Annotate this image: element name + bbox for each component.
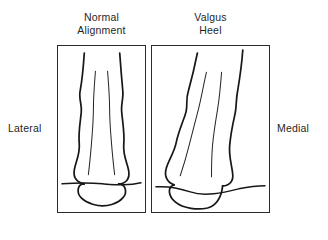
leg-contour-lateral-valgus: [166, 53, 198, 185]
ground-line-normal: [62, 183, 141, 185]
achilles-tendon-border-medial-valgus: [212, 72, 222, 177]
achilles-tendon-border-medial-normal: [108, 71, 115, 175]
normal-alignment-illustration: [58, 46, 145, 212]
panel-title-valgus: Valgus Heel: [151, 11, 270, 36]
leg-contour-medial-valgus: [223, 50, 243, 186]
valgus-heel-diagram: Normal Alignment Valgus Heel Lateral Med…: [0, 0, 328, 240]
valgus-heel-illustration: [152, 46, 269, 212]
side-label-medial: Medial: [277, 122, 323, 135]
panel-normal-alignment: [57, 45, 146, 213]
leg-contour-lateral-normal: [74, 53, 84, 184]
ground-line-valgus: [156, 186, 265, 194]
heel-outline-normal: [78, 184, 125, 206]
achilles-tendon-border-lateral-normal: [88, 71, 95, 175]
achilles-tendon-border-lateral-valgus: [180, 72, 206, 176]
side-label-lateral: Lateral: [8, 122, 54, 135]
panel-valgus-heel: [151, 45, 270, 213]
panel-title-normal: Normal Alignment: [57, 11, 146, 36]
leg-contour-medial-normal: [119, 53, 129, 184]
